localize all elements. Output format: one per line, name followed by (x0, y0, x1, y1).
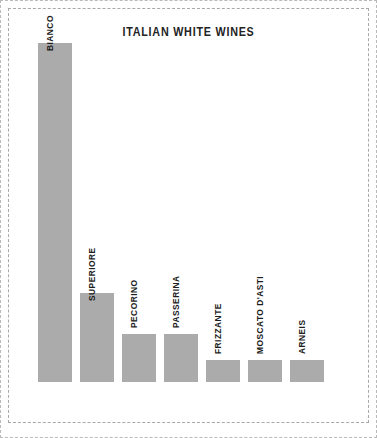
bar-label: BIANCO (44, 10, 55, 51)
plot-area: BIANCOSUPERIOREPECORINOPASSERINAFRIZZANT… (38, 43, 334, 382)
bar-group: SUPERIORE (80, 43, 114, 382)
bar-label-text: ARNEIS (296, 320, 307, 354)
bar-label-text: SUPERIORE (86, 247, 97, 301)
bar-label: MOSCATO D'ASTI (254, 265, 265, 354)
bar-group: FRIZZANTE (206, 43, 240, 382)
bar (80, 293, 114, 382)
bar-label-text: PECORINO (128, 280, 139, 328)
bar (206, 360, 240, 382)
bar-label: PASSERINA (170, 268, 181, 328)
chart-figure: ITALIAN WHITE WINES BIANCOSUPERIOREPECOR… (0, 0, 377, 438)
bar-label-text: PASSERINA (170, 275, 181, 328)
bar-group: PASSERINA (164, 43, 198, 382)
bar-label: ARNEIS (296, 315, 307, 354)
bar-label: SUPERIORE (86, 240, 97, 301)
bar-group: PECORINO (122, 43, 156, 382)
bar (290, 360, 324, 382)
bar-label: PECORINO (128, 273, 139, 328)
bar-label-text: MOSCATO D'ASTI (254, 276, 265, 354)
bar (38, 43, 72, 382)
bar-group: ARNEIS (290, 43, 324, 382)
bar-label-text: BIANCO (44, 15, 55, 51)
bar-group: BIANCO (38, 43, 72, 382)
bar (248, 360, 282, 382)
bar (164, 334, 198, 382)
bar-label-text: FRIZZANTE (212, 303, 223, 354)
bar-label: FRIZZANTE (212, 296, 223, 354)
bar-group: MOSCATO D'ASTI (248, 43, 282, 382)
chart-title: ITALIAN WHITE WINES (26, 25, 350, 39)
bar (122, 334, 156, 382)
